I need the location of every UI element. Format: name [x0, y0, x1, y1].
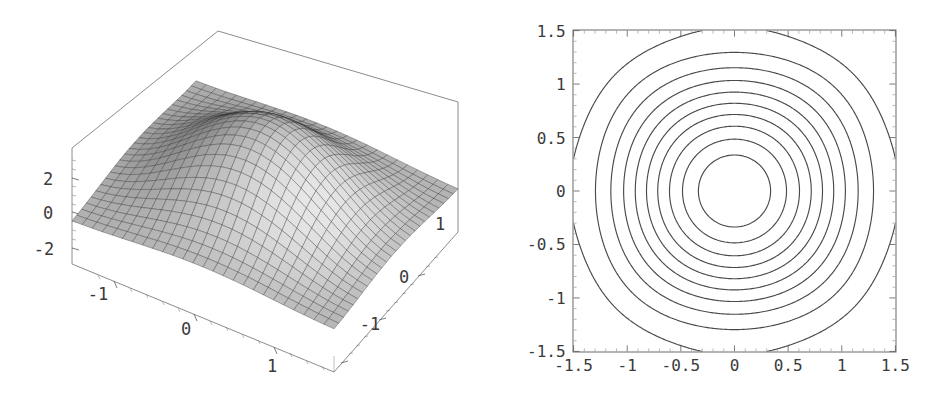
- contour-plot-panel: -1.5-1-0.500.511.5 1.510.50-0.5-1-1.5: [472, 0, 944, 396]
- contour-y-tick-6: -1.5: [527, 342, 566, 361]
- surface-mesh: [72, 81, 458, 329]
- x-tick-label-neg1: -1: [88, 284, 108, 304]
- z-tick-label-0: 0: [43, 203, 53, 223]
- x-tick-label-0: 0: [181, 319, 191, 339]
- x-tick-label-1: 1: [267, 356, 277, 376]
- surface-plot-panel: 2 0 -2 -1 0 1 1 0 -1: [0, 0, 472, 396]
- contour-x-tick-4: 0.5: [774, 356, 803, 375]
- contour-y-tick-5: -1: [546, 289, 565, 308]
- contour-lines: [574, 31, 896, 352]
- y-tick-label-neg1: -1: [360, 314, 380, 334]
- figure-container: 2 0 -2 -1 0 1 1 0 -1 -1.5-1-0.500.511.5 …: [0, 0, 944, 396]
- contour-x-tick-6: 1.5: [881, 356, 910, 375]
- contour-y-tick-3: 0: [556, 182, 566, 201]
- contour-x-tick-labels: -1.5-1-0.500.511.5: [554, 356, 910, 375]
- contour-x-tick-1: -1: [618, 356, 637, 375]
- contour-y-tick-2: 0.5: [537, 129, 566, 148]
- contour-plot-svg: -1.5-1-0.500.511.5 1.510.50-0.5-1-1.5: [472, 0, 944, 396]
- contour-axis-ticks: [574, 31, 896, 352]
- z-tick-label-neg2: -2: [34, 239, 54, 259]
- surface-plot-svg: 2 0 -2 -1 0 1 1 0 -1: [0, 0, 472, 396]
- z-tick-label-2: 2: [43, 169, 53, 189]
- contour-y-tick-4: -0.5: [527, 235, 566, 254]
- z-axis-ticks: [72, 160, 79, 250]
- contour-y-tick-0: 1.5: [537, 22, 566, 41]
- contour-x-tick-5: 1: [837, 356, 847, 375]
- contour-y-tick-labels: 1.510.50-0.5-1-1.5: [527, 22, 566, 362]
- contour-x-tick-2: -0.5: [662, 356, 701, 375]
- y-tick-label-0: 0: [399, 267, 409, 287]
- y-tick-label-1: 1: [435, 214, 445, 234]
- contour-x-tick-3: 0: [730, 356, 740, 375]
- contour-y-tick-1: 1: [556, 75, 566, 94]
- contour-frame: [573, 30, 896, 352]
